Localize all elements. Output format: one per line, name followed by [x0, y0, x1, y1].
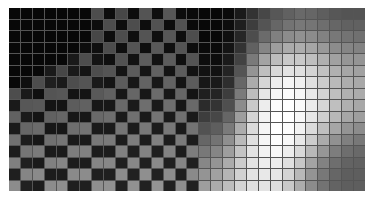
heatmap-cell [176, 135, 187, 146]
heatmap-cell [140, 8, 151, 19]
heatmap-cell [128, 77, 139, 88]
heatmap-cell [318, 146, 329, 157]
heatmap-cell [247, 8, 258, 19]
heatmap-cell [57, 123, 68, 134]
heatmap-cell [271, 135, 282, 146]
heatmap-cell [9, 66, 20, 77]
heatmap-cell [80, 77, 91, 88]
heatmap-cell [164, 100, 175, 111]
heatmap-cell [318, 31, 329, 42]
heatmap-cell [116, 8, 127, 19]
heatmap-cell [176, 100, 187, 111]
heatmap-cell [33, 89, 44, 100]
heatmap-cell [283, 43, 294, 54]
heatmap-cell [80, 8, 91, 19]
heatmap-cell [21, 146, 32, 157]
heatmap-cell [211, 31, 222, 42]
heatmap-cell [45, 135, 56, 146]
heatmap-cell [164, 158, 175, 169]
heatmap-cell [176, 169, 187, 180]
heatmap-cell [164, 181, 175, 192]
heatmap-cell [116, 135, 127, 146]
heatmap-cell [9, 43, 20, 54]
heatmap-cell [21, 135, 32, 146]
heatmap-cell [259, 77, 270, 88]
heatmap-cell [342, 31, 353, 42]
heatmap-cell [104, 8, 115, 19]
heatmap-cell [211, 20, 222, 31]
heatmap-cell [295, 112, 306, 123]
heatmap-cell [259, 89, 270, 100]
heatmap-cell [152, 158, 163, 169]
heatmap-cell [104, 89, 115, 100]
heatmap-cell [140, 31, 151, 42]
heatmap-cell [152, 31, 163, 42]
heatmap-cell [45, 123, 56, 134]
heatmap-cell [128, 123, 139, 134]
heatmap-cell [271, 89, 282, 100]
heatmap-cell [128, 20, 139, 31]
heatmap-cell [164, 89, 175, 100]
heatmap-cell [306, 112, 317, 123]
heatmap-cell [283, 181, 294, 192]
heatmap-cell [116, 20, 127, 31]
heatmap-cell [57, 146, 68, 157]
heatmap-cell [211, 112, 222, 123]
heatmap-cell [247, 54, 258, 65]
heatmap-cell [92, 66, 103, 77]
heatmap-cell [152, 20, 163, 31]
heatmap-cell [9, 158, 20, 169]
heatmap-cell [342, 112, 353, 123]
heatmap-cell [295, 66, 306, 77]
heatmap-cell [45, 100, 56, 111]
heatmap-cell [330, 43, 341, 54]
heatmap-cell [92, 54, 103, 65]
heatmap-cell [104, 158, 115, 169]
heatmap-cell [271, 66, 282, 77]
heatmap-cell [68, 158, 79, 169]
heatmap-cell [176, 158, 187, 169]
heatmap-cell [223, 135, 234, 146]
heatmap-cell [21, 43, 32, 54]
heatmap-cell [306, 135, 317, 146]
heatmap-cell [354, 169, 365, 180]
heatmap-cell [68, 146, 79, 157]
heatmap-cell [164, 20, 175, 31]
heatmap-cell [187, 31, 198, 42]
heatmap-cell [80, 158, 91, 169]
heatmap-cell [140, 89, 151, 100]
heatmap-cell [45, 43, 56, 54]
heatmap-cell [33, 123, 44, 134]
heatmap-cell [223, 77, 234, 88]
heatmap-cell [187, 54, 198, 65]
heatmap-cell [33, 31, 44, 42]
heatmap-cell [128, 135, 139, 146]
heatmap-cell [306, 123, 317, 134]
heatmap-cell [33, 158, 44, 169]
heatmap-cell [247, 66, 258, 77]
heatmap-cell [140, 66, 151, 77]
heatmap-cell [33, 66, 44, 77]
heatmap-cell [187, 112, 198, 123]
heatmap-cell [116, 146, 127, 157]
heatmap-cell [295, 181, 306, 192]
heatmap-cell [80, 20, 91, 31]
heatmap-cell [259, 181, 270, 192]
heatmap-cell [104, 31, 115, 42]
heatmap-cell [80, 89, 91, 100]
heatmap-cell [33, 43, 44, 54]
heatmap-cell [199, 54, 210, 65]
heatmap-cell [9, 8, 20, 19]
heatmap-cell [223, 8, 234, 19]
heatmap-cell [330, 8, 341, 19]
heatmap-cell [104, 146, 115, 157]
heatmap-cell [68, 66, 79, 77]
heatmap-grid[interactable] [9, 8, 365, 191]
heatmap-cell [140, 43, 151, 54]
heatmap-cell [45, 158, 56, 169]
heatmap-cell [295, 43, 306, 54]
heatmap-cell [152, 169, 163, 180]
heatmap-cell [57, 135, 68, 146]
heatmap-cell [354, 43, 365, 54]
heatmap-cell [21, 77, 32, 88]
